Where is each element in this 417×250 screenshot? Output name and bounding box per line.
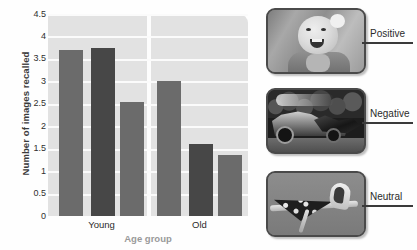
y-axis-tick: 0.5 xyxy=(22,189,46,198)
plot-area xyxy=(48,14,248,216)
x-axis-title: Age group xyxy=(48,233,248,244)
bar-young-negative xyxy=(91,48,115,216)
photo-label-negative: Negative xyxy=(370,108,409,119)
y-axis-tick: 4 xyxy=(22,32,46,41)
baby-photo xyxy=(266,8,366,74)
x-axis-tick-young: Young xyxy=(49,219,154,230)
group-divider xyxy=(147,14,151,216)
bar-old-negative xyxy=(189,144,213,216)
car-crash-photo xyxy=(266,88,366,154)
leader-line-negative xyxy=(362,122,413,124)
y-axis-tick: 3 xyxy=(22,77,46,86)
figure-panel: Number of images recalled 4.543.532.521.… xyxy=(0,0,417,250)
bar-old-positive xyxy=(157,81,181,216)
y-axis-tick: 3.5 xyxy=(22,54,46,63)
ironing-photo xyxy=(266,171,366,237)
gridline xyxy=(48,14,248,16)
gridline xyxy=(48,36,248,38)
y-axis-tick: 4.5 xyxy=(22,10,46,19)
stimulus-photo-panel: Positive Negative xyxy=(258,0,417,250)
bar-young-positive xyxy=(59,50,83,216)
photo-label-positive: Positive xyxy=(370,28,405,39)
bar-young-neutral xyxy=(120,102,144,216)
x-axis-tick-old: Old xyxy=(147,219,252,230)
y-axis-tick: 0 xyxy=(22,212,46,221)
y-axis-tick: 1.5 xyxy=(22,144,46,153)
y-axis-tick: 1 xyxy=(22,167,46,176)
y-axis-tick: 2 xyxy=(22,122,46,131)
y-axis-tick: 2.5 xyxy=(22,99,46,108)
bar-chart: Number of images recalled 4.543.532.521.… xyxy=(0,0,258,250)
y-axis-tick-labels: 4.543.532.521.510.50 xyxy=(22,0,46,250)
bar-old-neutral xyxy=(218,155,242,216)
photo-label-neutral: Neutral xyxy=(370,191,402,202)
leader-line-neutral xyxy=(362,205,413,207)
leader-line-positive xyxy=(362,42,413,44)
